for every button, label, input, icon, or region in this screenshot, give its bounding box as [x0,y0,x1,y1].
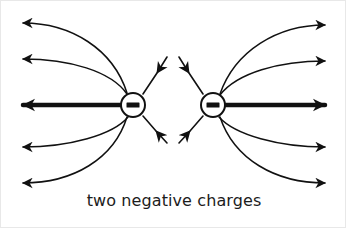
left-line-top-outer [23,23,127,93]
right-line-bot-outer [220,117,325,183]
figure-caption: two negative charges [1,191,346,210]
charge-left [121,93,145,117]
charge-left-minus-icon [127,103,140,108]
charge-right [201,93,225,117]
left-line-bot-outer [23,117,127,183]
left-line-bot-inner [23,117,128,147]
inner-line-right-upper [179,57,203,94]
inner-field-lines [143,57,203,143]
electric-field-diagram: two negative charges [0,0,346,228]
charge-right-minus-icon [207,103,220,108]
inner-line-left-upper [143,57,167,94]
right-field-lines [219,25,325,183]
inner-line-right-lower [179,116,203,143]
inner-line-left-lower [143,116,167,143]
right-line-bot-inner [219,117,325,147]
left-field-lines [23,23,128,183]
right-line-top-outer [220,25,325,94]
